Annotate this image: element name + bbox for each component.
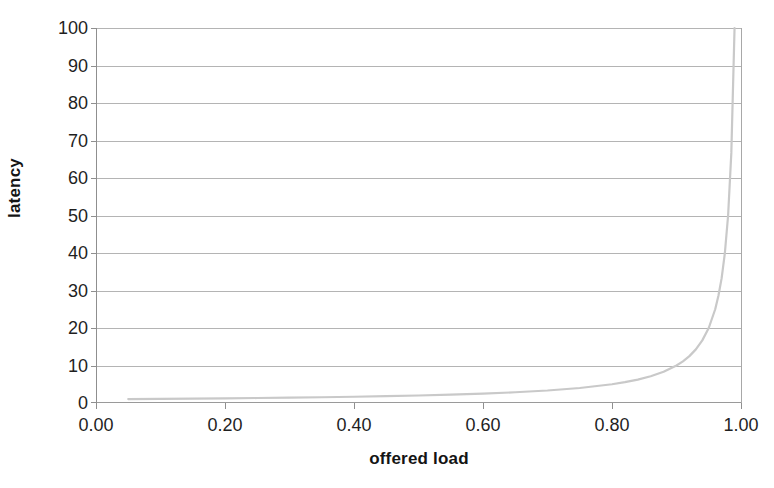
x-tick-0.00 xyxy=(96,403,97,409)
y-tick-label-80: 80 xyxy=(42,94,88,112)
y-tick-label-30: 30 xyxy=(42,282,88,300)
y-tick-label-0: 0 xyxy=(42,394,88,412)
y-tick-label-100: 100 xyxy=(42,19,88,37)
x-tick-label-1.00: 1.00 xyxy=(696,416,774,434)
x-tick-0.20 xyxy=(225,403,226,409)
x-axis-tick-labels: 0.000.200.400.600.801.00 xyxy=(96,416,742,440)
y-tick-label-40: 40 xyxy=(42,244,88,262)
y-tick-label-10: 10 xyxy=(42,357,88,375)
y-axis-title: latency xyxy=(5,138,25,238)
x-tick-0.60 xyxy=(483,403,484,409)
latency-curve xyxy=(96,28,742,403)
x-tick-0.40 xyxy=(354,403,355,409)
chart-figure: latency 0102030405060708090100 0.000.200… xyxy=(0,0,774,488)
y-tick-label-70: 70 xyxy=(42,132,88,150)
x-tick-label-0.20: 0.20 xyxy=(180,416,270,434)
x-tick-1.00 xyxy=(741,403,742,409)
plot-area xyxy=(96,28,742,403)
y-tick-label-50: 50 xyxy=(42,207,88,225)
x-axis-title: offered load xyxy=(96,449,742,469)
y-tick-label-90: 90 xyxy=(42,57,88,75)
x-tick-label-0.40: 0.40 xyxy=(309,416,399,434)
y-axis-tick-labels: 0102030405060708090100 xyxy=(40,28,88,403)
y-tick-label-20: 20 xyxy=(42,319,88,337)
x-tick-label-0.60: 0.60 xyxy=(438,416,528,434)
x-tick-0.80 xyxy=(612,403,613,409)
y-tick-label-60: 60 xyxy=(42,169,88,187)
x-tick-label-0.00: 0.00 xyxy=(51,416,141,434)
x-tick-label-0.80: 0.80 xyxy=(567,416,657,434)
